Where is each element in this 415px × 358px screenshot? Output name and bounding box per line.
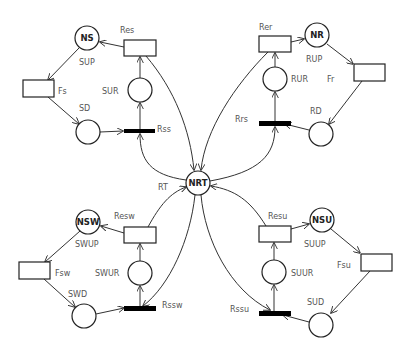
arc-swd-to-rssw bbox=[96, 308, 124, 314]
arc-sud-to-rssu bbox=[283, 315, 309, 322]
label-ns: NS bbox=[80, 33, 93, 43]
element-labels: Res SUP Fs SD SUR Rss Rer RUP RUR Fr RD … bbox=[55, 23, 351, 314]
label-rup: RUP bbox=[306, 55, 322, 64]
arc-resw-to-nrt bbox=[148, 187, 186, 227]
label-rss: Rss bbox=[157, 125, 171, 134]
label-nsw: NSW bbox=[77, 217, 100, 227]
label-sd: SD bbox=[79, 104, 90, 113]
label-rrs: Rrs bbox=[235, 115, 248, 124]
label-resu: Resu bbox=[268, 212, 287, 221]
label-fsu: Fsu bbox=[337, 261, 351, 270]
arc-nrt-to-rssw bbox=[143, 195, 195, 306]
arc-nrt-to-rss bbox=[140, 134, 186, 180]
arc-res-to-nrt bbox=[146, 56, 194, 170]
arc-rer-to-nr bbox=[291, 39, 304, 42]
label-nr: NR bbox=[310, 30, 324, 40]
arc-fs-to-sd bbox=[48, 97, 79, 124]
arc-fr-to-rd bbox=[329, 81, 362, 124]
label-swur: SWUR bbox=[95, 269, 120, 278]
place-sud bbox=[309, 313, 333, 337]
arc-nr-to-fr bbox=[327, 44, 353, 64]
transition-fsu bbox=[361, 254, 392, 271]
label-rt: RT bbox=[158, 183, 168, 192]
label-suup: SUUP bbox=[304, 240, 326, 249]
label-nsu: NSU bbox=[312, 215, 332, 225]
transition-resw bbox=[124, 227, 156, 243]
place-swur bbox=[128, 261, 152, 285]
label-sur: SUR bbox=[102, 87, 119, 96]
label-res: Res bbox=[120, 26, 134, 35]
label-sup: SUP bbox=[79, 58, 95, 67]
arc-res-to-ns bbox=[100, 42, 124, 47]
place-suur bbox=[262, 260, 286, 284]
transition-rrs bbox=[259, 121, 291, 126]
place-sur bbox=[128, 78, 152, 102]
arc-nsu-to-fsu bbox=[331, 229, 360, 253]
transition-rss bbox=[124, 129, 155, 133]
transition-fr bbox=[354, 64, 385, 81]
label-rssu: Rssu bbox=[230, 305, 249, 314]
place-swd bbox=[72, 304, 96, 328]
label-fs: Fs bbox=[58, 87, 67, 96]
immediate-transitions bbox=[124, 121, 291, 316]
place-rd bbox=[309, 122, 333, 146]
arc-ns-to-fs bbox=[48, 48, 79, 80]
label-swup: SWUP bbox=[75, 240, 99, 249]
transition-resu bbox=[259, 226, 291, 242]
label-rer: Rer bbox=[259, 23, 273, 32]
arc-nrt-to-rssu bbox=[201, 195, 270, 310]
label-swd: SWD bbox=[68, 290, 87, 299]
label-rd: RD bbox=[310, 107, 322, 116]
arc-resu-to-nrt bbox=[211, 186, 266, 226]
label-suur: SUUR bbox=[291, 269, 314, 278]
label-nrt: NRT bbox=[188, 178, 207, 188]
transition-fsw bbox=[19, 262, 50, 279]
label-fr: Fr bbox=[327, 75, 335, 84]
arc-resw-to-nsw bbox=[101, 226, 124, 233]
label-fsw: Fsw bbox=[55, 269, 71, 278]
arc-sd-to-rss bbox=[100, 131, 123, 132]
transition-res bbox=[124, 40, 156, 56]
transition-rssw bbox=[124, 306, 156, 311]
arc-fsu-to-sud bbox=[331, 271, 370, 313]
place-rur bbox=[263, 67, 287, 91]
label-rur: RUR bbox=[291, 75, 308, 84]
place-sd bbox=[76, 120, 100, 144]
label-sud: SUD bbox=[307, 298, 324, 307]
transition-rssu bbox=[259, 311, 291, 316]
arc-rer-to-nrt bbox=[201, 52, 268, 170]
label-resw: Resw bbox=[114, 212, 135, 221]
transition-rer bbox=[259, 36, 291, 52]
petri-net-diagram: NS NR NRT NSW NSU Res SUP Fs SD SUR Rss … bbox=[0, 0, 415, 358]
transition-fs bbox=[23, 80, 54, 97]
label-rssw: Rssw bbox=[162, 301, 183, 310]
place-labels: NS NR NRT NSW NSU bbox=[77, 30, 332, 227]
arc-nrt-to-rrs bbox=[210, 127, 275, 181]
arc-resu-to-nsu bbox=[291, 224, 309, 229]
